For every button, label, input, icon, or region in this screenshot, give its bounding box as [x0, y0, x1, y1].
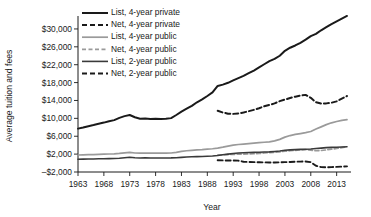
legend-label-0: List, 4-year private	[111, 7, 180, 17]
y-tick-label: $30,000	[42, 24, 73, 34]
legend-label-5: Net, 2-year public	[111, 68, 177, 78]
y-tick-label: $2,000	[46, 149, 72, 159]
chart-container: $30,000$26,000$22,000$18,000$14,000$10,0…	[0, 0, 371, 217]
x-tick-label: 1973	[120, 179, 139, 189]
x-tick-label: 1998	[250, 179, 269, 189]
y-tick-label: –$2,000	[42, 167, 73, 177]
x-tick-label: 2003	[276, 179, 295, 189]
tuition-line-chart: $30,000$26,000$22,000$18,000$14,000$10,0…	[0, 0, 371, 217]
y-axis-title: Average tuition and fees	[4, 50, 14, 143]
y-tick-label: $26,000	[42, 42, 73, 52]
x-tick-label: 2008	[301, 179, 320, 189]
legend-label-4: List, 2-year public	[111, 56, 177, 66]
legend-label-2: List, 4-year public	[111, 31, 177, 41]
legend-label-1: Net, 4-year private	[111, 19, 180, 29]
x-tick-label: 1983	[172, 179, 191, 189]
x-tick-label: 1978	[146, 179, 165, 189]
y-tick-label: $10,000	[42, 113, 73, 123]
x-axis-title: Year	[203, 202, 221, 212]
x-tick-label: 1993	[224, 179, 243, 189]
legend-label-3: Net, 4-year public	[111, 44, 177, 54]
y-tick-label: $18,000	[42, 78, 73, 88]
y-tick-label: $6,000	[46, 131, 72, 141]
x-tick-label: 1968	[95, 179, 114, 189]
x-tick-label: 2013	[327, 179, 346, 189]
x-tick-label: 1963	[69, 179, 88, 189]
y-tick-label: $22,000	[42, 60, 73, 70]
x-tick-label: 1988	[198, 179, 217, 189]
y-tick-label: $14,000	[42, 95, 73, 105]
